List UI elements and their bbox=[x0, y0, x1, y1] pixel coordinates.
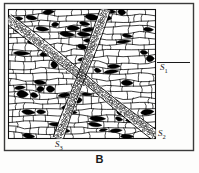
panel-label: B bbox=[0, 154, 199, 165]
label-s1: S1 bbox=[160, 63, 168, 74]
fabric-drawing bbox=[0, 0, 199, 173]
label-s2: S2 bbox=[158, 129, 166, 140]
figure-panel-b: S1 S2 S3 B bbox=[0, 0, 199, 173]
label-s3: S3 bbox=[55, 140, 63, 151]
